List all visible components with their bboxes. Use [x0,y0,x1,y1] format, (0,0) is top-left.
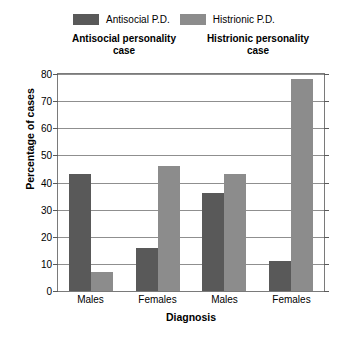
bar-histrionic [91,272,113,291]
y-axis-title: Percentage of cases [24,54,36,224]
x-tick-label: Females [124,294,191,305]
legend-label-antisocial: Antisocial P.D. [106,14,170,25]
y-tick-mark [324,264,329,265]
chart-legend: Antisocial P.D. Histrionic P.D. [0,14,348,25]
y-tick-mark [324,128,329,129]
plot-frame: 01020304050607080 [57,73,325,292]
y-tick-label: 20 [41,231,52,242]
bar-antisocial [202,193,224,291]
bar-antisocial [269,261,291,291]
y-tick-label: 10 [41,258,52,269]
y-tick-mark [53,291,58,292]
y-tick-label: 30 [41,204,52,215]
y-tick-mark [324,74,329,75]
y-tick-label: 80 [41,69,52,80]
legend-swatch-antisocial [73,14,99,25]
bar-group [191,74,258,291]
y-tick-mark [324,101,329,102]
group-title-antisocial-case: Antisocial personality case [57,33,191,57]
y-tick-label: 0 [46,286,52,297]
bar-antisocial [69,174,91,291]
y-tick-mark [324,210,329,211]
group-title-line2: case [57,45,191,57]
group-title-histrionic-case: Histrionic personality case [191,33,325,57]
y-tick-mark [324,155,329,156]
x-tick-label: Males [57,294,124,305]
plot-area: 01020304050607080 [57,73,325,292]
legend-item-histrionic: Histrionic P.D. [180,14,275,25]
group-title-line1: Antisocial personality [57,33,191,45]
bar-antisocial [136,248,158,291]
group-titles: Antisocial personality case Histrionic p… [57,33,325,57]
bar-group [125,74,192,291]
x-tick-label: Females [258,294,325,305]
bar-histrionic [224,174,246,291]
x-tick-labels: MalesFemalesMalesFemales [57,294,325,305]
legend-item-antisocial: Antisocial P.D. [73,14,170,25]
legend-label-histrionic: Histrionic P.D. [213,14,275,25]
bar-groups [58,74,324,291]
bar-group [58,74,125,291]
y-tick-label: 70 [41,96,52,107]
bar-histrionic [158,166,180,291]
y-tick-label: 50 [41,150,52,161]
bar-histrionic [291,79,313,291]
bar-group [258,74,325,291]
x-axis-title: Diagnosis [57,311,325,323]
x-tick-label: Males [191,294,258,305]
legend-swatch-histrionic [180,14,206,25]
group-title-line2: case [191,45,325,57]
group-title-line1: Histrionic personality [191,33,325,45]
y-tick-mark [324,183,329,184]
y-tick-label: 60 [41,123,52,134]
y-tick-mark [324,291,329,292]
y-tick-label: 40 [41,177,52,188]
y-tick-mark [324,237,329,238]
